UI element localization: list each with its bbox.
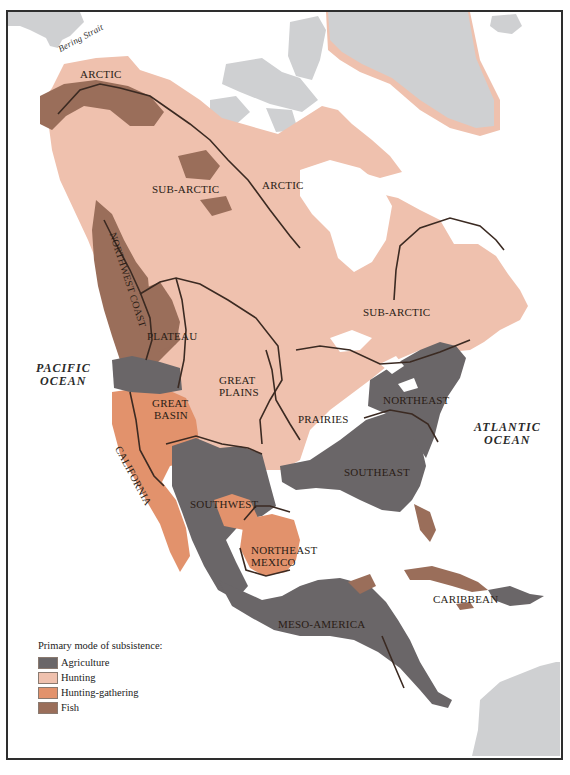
label-atlantic-2: OCEAN <box>484 434 530 446</box>
label-ne-mexico-1: NORTHEAST <box>251 544 318 556</box>
legend-item-fish: Fish <box>38 700 163 715</box>
legend-swatch-fish <box>38 702 58 714</box>
label-arctic-west: ARCTIC <box>80 68 122 80</box>
legend-swatch-agriculture <box>38 657 58 669</box>
legend-item-agriculture: Agriculture <box>38 655 163 670</box>
legend-item-hunting: Hunting <box>38 670 163 685</box>
legend-label: Hunting <box>61 672 95 683</box>
cuba-fish <box>404 566 488 592</box>
label-great-basin-2: BASIN <box>154 409 188 421</box>
legend-swatch-hunting <box>38 672 58 684</box>
greenland-landmass <box>328 12 494 128</box>
label-plateau: PLATEAU <box>147 330 197 342</box>
label-great-plains-2: PLAINS <box>219 386 259 398</box>
south-america-landmass <box>472 662 560 756</box>
label-great-plains-1: GREAT <box>219 374 255 386</box>
legend-label: Hunting-gathering <box>61 687 139 698</box>
label-great-basin-1: GREAT <box>152 397 188 409</box>
legend-label: Agriculture <box>61 657 109 668</box>
label-prairies: PRAIRIES <box>298 413 349 425</box>
label-pacific-1: PACIFIC <box>36 362 91 374</box>
label-atlantic-1: ATLANTIC <box>474 421 541 433</box>
meso-america-agriculture <box>218 578 452 708</box>
label-southwest: SOUTHWEST <box>190 498 258 510</box>
label-caribbean: CARIBBEAN <box>433 593 498 605</box>
map-legend: Primary mode of subsistence: Agriculture… <box>38 640 163 715</box>
label-arctic-east: ARCTIC <box>262 179 304 191</box>
label-ne-mexico-2: MEXICO <box>251 556 296 568</box>
florida-fish <box>414 504 436 542</box>
label-southeast: SOUTHEAST <box>344 466 410 478</box>
iceland-landmass <box>490 14 522 34</box>
label-northeast: NORTHEAST <box>383 394 450 406</box>
label-subarctic-west: SUB-ARCTIC <box>152 183 219 195</box>
label-meso-america: MESO-AMERICA <box>278 618 365 630</box>
legend-item-hunting-gathering: Hunting-gathering <box>38 685 163 700</box>
label-pacific-2: OCEAN <box>40 375 86 387</box>
label-subarctic-east: SUB-ARCTIC <box>363 306 430 318</box>
legend-title: Primary mode of subsistence: <box>38 640 163 651</box>
legend-label: Fish <box>61 702 79 713</box>
legend-swatch-hunting-gathering <box>38 687 58 699</box>
